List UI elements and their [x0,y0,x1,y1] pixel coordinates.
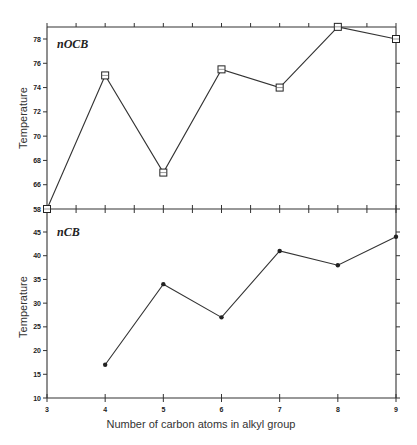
y-tick-label-bottom: 20 [33,347,41,354]
dot-marker [394,235,398,239]
panel-label-ncb: nCB [57,225,80,239]
y-tick-label-bottom: 15 [33,371,41,378]
dot-marker [277,249,281,253]
y-tick-label-overlap: 58 [33,206,41,213]
x-tick-label: 9 [394,406,398,413]
y-tick-label-bottom: 35 [33,276,41,283]
y-tick-label-bottom: 45 [33,229,41,236]
y-tick-label-bottom: 10 [33,395,41,402]
y-tick-label-bottom: 40 [33,252,41,259]
dot-marker [103,363,107,367]
panel-ncb: 1015202530354045 [33,229,400,402]
panel-nocb: 6668707274767858 [33,23,400,212]
chart-canvas: 3456789 6668707274767858 101520253035404… [0,0,417,445]
x-tick-label: 5 [161,406,165,413]
y-tick-label-bottom: 30 [33,300,41,307]
y-tick-label-top: 78 [33,36,41,43]
y-axis-title-top: Temperature [17,87,29,149]
series-line-ncb [105,237,396,365]
x-axis-title: Number of carbon atoms in alkyl group [107,418,296,430]
x-tick-label: 8 [336,406,340,413]
series-line-nocb [47,27,396,209]
dot-marker [161,282,165,286]
axes-frame: 3456789 [45,23,398,413]
y-tick-label-top: 76 [33,60,41,67]
x-tick-label: 3 [45,406,49,413]
y-tick-label-top: 72 [33,108,41,115]
y-tick-label-top: 74 [33,84,41,91]
y-tick-label-bottom: 25 [33,323,41,330]
x-tick-label: 6 [220,406,224,413]
x-tick-label: 7 [278,406,282,413]
y-tick-label-top: 66 [33,181,41,188]
y-tick-label-top: 70 [33,133,41,140]
y-axis-title-bottom: Temperature [17,276,29,338]
y-tick-label-top: 68 [33,157,41,164]
dot-marker [219,315,223,319]
dot-marker [336,263,340,267]
x-tick-label: 4 [103,406,107,413]
figure: 3456789 6668707274767858 101520253035404… [0,0,417,445]
panel-label-nocb: nOCB [57,37,88,51]
